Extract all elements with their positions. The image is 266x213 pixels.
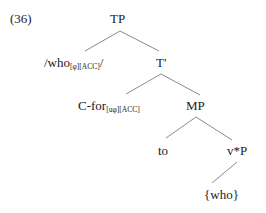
node-to: to	[158, 144, 168, 157]
edge-tp-who	[85, 31, 120, 51]
c-for-label: C-for	[78, 98, 106, 113]
node-mp: MP	[186, 99, 205, 112]
node-who-phonological: /who[φ][ACC]/	[44, 56, 103, 71]
node-who-set: {who}	[204, 188, 239, 201]
who-features: [φ][ACC]	[70, 62, 100, 71]
who-prefix: /who	[44, 55, 70, 70]
edge-tp-tbar	[120, 31, 159, 51]
node-t-bar: T′	[156, 56, 167, 69]
c-for-features: [uφ][ACC]	[106, 105, 140, 114]
node-vstar-p: v*P	[227, 144, 247, 157]
edge-tbar-mp	[161, 74, 200, 95]
who-suffix: /	[100, 55, 104, 70]
edge-vp-who	[212, 162, 237, 183]
example-number: (36)	[10, 12, 32, 25]
node-c-for: C-for[uφ][ACC]	[78, 99, 140, 114]
node-tp: TP	[110, 12, 125, 25]
edge-mp-to	[166, 117, 196, 138]
edge-tbar-cfor	[126, 74, 161, 94]
edge-mp-vp	[196, 117, 232, 140]
